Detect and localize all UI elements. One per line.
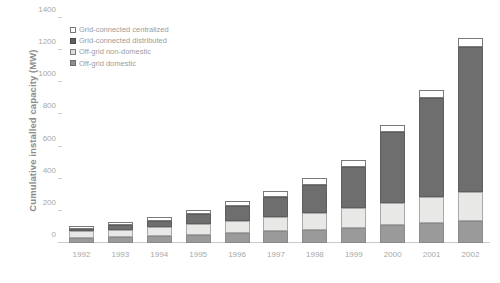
y-tick-label: 800 — [22, 101, 56, 110]
x-tick-label: 1994 — [147, 250, 172, 259]
bar-segment — [341, 208, 366, 227]
y-tick-label: 0 — [22, 230, 56, 239]
bar-segment — [147, 236, 172, 243]
bar-segment — [419, 90, 444, 98]
bar-segment — [186, 224, 211, 235]
x-tick-label: 2002 — [458, 250, 483, 259]
legend-item: Off-grid non-domestic — [70, 47, 169, 56]
bar-column — [380, 18, 405, 243]
bar-segment — [225, 221, 250, 234]
legend-swatch-icon — [70, 38, 76, 44]
x-tick-label: 2000 — [380, 250, 405, 259]
bar-segment — [225, 206, 250, 221]
y-tick-label: 600 — [22, 133, 56, 142]
bar-segment — [186, 235, 211, 243]
bar-column — [458, 18, 483, 243]
x-tick-label: 1998 — [302, 250, 327, 259]
y-tick-label: 1200 — [22, 37, 56, 46]
bar-column — [302, 18, 327, 243]
bar-segment — [341, 167, 366, 208]
bar-segment — [186, 214, 211, 224]
bar-segment — [69, 238, 94, 243]
bar-segment — [302, 213, 327, 230]
legend-swatch-icon — [70, 27, 76, 33]
bar-column — [263, 18, 288, 243]
bar-column — [186, 18, 211, 243]
bar-segment — [108, 237, 133, 243]
bar-segment — [302, 230, 327, 244]
bar-segment — [147, 227, 172, 236]
bar-segment — [108, 230, 133, 238]
bar-segment — [263, 217, 288, 231]
bar-segment — [225, 233, 250, 243]
y-tick-label: 400 — [22, 165, 56, 174]
x-tick-label: 1993 — [108, 250, 133, 259]
x-tick-label: 1997 — [263, 250, 288, 259]
legend-swatch-icon — [70, 60, 76, 66]
x-tick-label: 1999 — [341, 250, 366, 259]
y-tick-label: 1000 — [22, 69, 56, 78]
bar-column — [341, 18, 366, 243]
bar-segment — [419, 98, 444, 198]
legend-item: Grid-connected centralized — [70, 25, 169, 34]
bar-segment — [263, 197, 288, 217]
bar-segment — [302, 185, 327, 213]
y-tick-label: 1400 — [22, 5, 56, 14]
x-tick-label: 2001 — [419, 250, 444, 259]
bar-segment — [419, 197, 444, 223]
bar-segment — [458, 38, 483, 47]
legend-item: Off-grid domestic — [70, 59, 169, 68]
bar-segment — [380, 225, 405, 243]
legend-label: Off-grid non-domestic — [79, 47, 151, 56]
bar-segment — [380, 132, 405, 203]
legend-label: Off-grid domestic — [79, 59, 136, 68]
bar-segment — [419, 223, 444, 243]
bar-column — [419, 18, 444, 243]
y-tick-label: 200 — [22, 197, 56, 206]
bar-segment — [69, 231, 94, 238]
legend-swatch-icon — [70, 49, 76, 55]
legend-label: Grid-connected centralized — [79, 25, 169, 34]
bar-segment — [341, 160, 366, 167]
chart-legend: Grid-connected centralizedGrid-connected… — [70, 25, 169, 68]
bar-segment — [458, 47, 483, 192]
x-tick-label: 1995 — [186, 250, 211, 259]
bar-segment — [380, 203, 405, 226]
bar-segment — [458, 192, 483, 221]
bar-segment — [263, 231, 288, 243]
legend-label: Grid-connected distributed — [79, 36, 167, 45]
x-tick-label: 1996 — [225, 250, 250, 259]
bar-segment — [380, 125, 405, 132]
x-axis-labels: 1992199319941995199619971998199920002001… — [62, 250, 490, 259]
stacked-bar-chart: Cumulative installed capacity (MW) 02004… — [0, 0, 500, 283]
bar-segment — [341, 228, 366, 243]
bar-column — [225, 18, 250, 243]
bar-segment — [458, 221, 483, 244]
x-tick-label: 1992 — [69, 250, 94, 259]
legend-item: Grid-connected distributed — [70, 36, 169, 45]
